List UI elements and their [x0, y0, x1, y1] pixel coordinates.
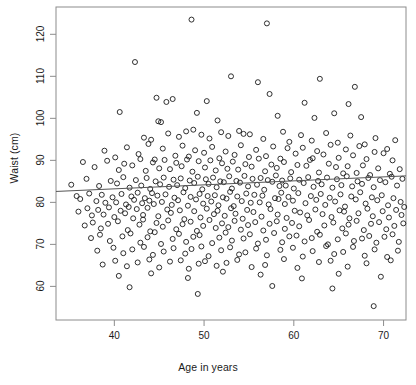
data-point: [80, 160, 85, 165]
data-point: [364, 157, 369, 162]
data-point: [154, 220, 159, 225]
data-point: [294, 233, 299, 238]
data-point: [362, 142, 367, 147]
data-point: [298, 210, 303, 215]
x-tick-label: 60: [288, 330, 299, 341]
data-point: [181, 190, 186, 195]
data-point: [240, 216, 245, 221]
data-point: [100, 262, 105, 267]
data-point: [241, 236, 246, 241]
data-point: [330, 185, 335, 190]
data-point: [230, 159, 235, 164]
data-point: [316, 260, 321, 265]
data-point: [220, 269, 225, 274]
data-point: [163, 192, 168, 197]
data-point: [347, 216, 352, 221]
data-point: [299, 276, 304, 281]
data-point: [114, 200, 119, 205]
data-point: [107, 239, 112, 244]
data-point: [396, 239, 401, 244]
data-point: [95, 248, 100, 253]
data-point: [322, 223, 327, 228]
data-point: [351, 153, 356, 158]
data-point: [246, 184, 251, 189]
data-point: [270, 283, 275, 288]
data-point: [342, 209, 347, 214]
data-point: [297, 177, 302, 182]
data-point: [264, 21, 269, 26]
data-point: [359, 115, 364, 120]
x-tick-label: 40: [109, 330, 120, 341]
data-point: [306, 175, 311, 180]
y-tick-label: 120: [35, 26, 46, 43]
data-point: [386, 215, 391, 220]
data-point: [277, 183, 282, 188]
data-point: [111, 245, 116, 250]
data-point: [332, 111, 337, 116]
data-point: [278, 247, 283, 252]
data-point: [394, 207, 399, 212]
data-points: [69, 17, 407, 309]
data-point: [76, 209, 81, 214]
data-point: [286, 194, 291, 199]
data-point: [150, 191, 155, 196]
data-point: [308, 194, 313, 199]
data-point: [164, 99, 169, 104]
data-point: [388, 258, 393, 263]
data-point: [255, 241, 260, 246]
y-tick-label: 80: [35, 197, 46, 208]
data-point: [282, 226, 287, 231]
data-point: [207, 218, 212, 223]
data-point: [303, 201, 308, 206]
data-point: [238, 227, 243, 232]
data-point: [287, 139, 292, 144]
data-point: [171, 246, 176, 251]
data-point: [189, 247, 194, 252]
data-point: [121, 251, 126, 256]
data-point: [397, 167, 402, 172]
data-point: [143, 168, 148, 173]
data-point: [207, 136, 212, 141]
data-point: [200, 187, 205, 192]
data-point: [171, 177, 176, 182]
data-point: [317, 232, 322, 237]
data-point: [273, 173, 278, 178]
data-point: [135, 190, 140, 195]
data-point: [219, 248, 224, 253]
data-point: [345, 264, 350, 269]
data-point: [196, 159, 201, 164]
data-point: [161, 175, 166, 180]
data-point: [226, 225, 231, 230]
data-point: [166, 131, 171, 136]
data-point: [179, 164, 184, 169]
data-point: [300, 145, 305, 150]
data-point: [205, 194, 210, 199]
data-point: [395, 183, 400, 188]
data-point: [333, 199, 338, 204]
data-point: [178, 176, 183, 181]
data-point: [338, 192, 343, 197]
data-point: [238, 143, 243, 148]
data-point: [172, 195, 177, 200]
data-point: [237, 128, 242, 133]
data-point: [174, 160, 179, 165]
data-point: [309, 138, 314, 143]
data-point: [134, 207, 139, 212]
data-point: [201, 223, 206, 228]
data-point: [204, 206, 209, 211]
data-point: [182, 217, 187, 222]
data-point: [219, 130, 224, 135]
data-point: [346, 222, 351, 227]
data-point: [321, 152, 326, 157]
data-point: [318, 191, 323, 196]
data-point: [168, 210, 173, 215]
data-point: [334, 165, 339, 170]
data-point: [209, 199, 214, 204]
data-point: [395, 248, 400, 253]
data-point: [352, 84, 357, 89]
data-point: [151, 202, 156, 207]
data-point: [351, 244, 356, 249]
data-point: [229, 238, 234, 243]
data-point: [377, 178, 382, 183]
data-point: [336, 271, 341, 276]
